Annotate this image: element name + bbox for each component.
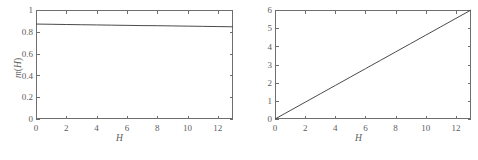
- figure-two-panel-plot: 02468101200.20.40.60.81 m(H) H 024681012…: [0, 0, 478, 160]
- chart-panel-left: 02468101200.20.40.60.81 m(H) H: [0, 0, 239, 160]
- y-axis-label-left-arg: H: [13, 61, 23, 68]
- y-tick-label: 4: [268, 42, 273, 52]
- y-tick-label: 0: [29, 114, 34, 124]
- y-tick-label: 2: [268, 78, 273, 88]
- x-axis-label-left: H: [0, 134, 239, 144]
- x-axis-label-right: H: [239, 134, 478, 144]
- x-tick-label: 10: [421, 123, 431, 133]
- y-tick-label: 3: [268, 60, 273, 70]
- y-tick-label: 0.8: [22, 27, 34, 37]
- x-tick-label: 6: [363, 123, 368, 133]
- y-axis-label-left-close: ): [13, 58, 23, 61]
- x-tick-label: 12: [451, 123, 460, 133]
- y-tick-label: 1: [29, 5, 34, 15]
- y-tick-label: 6: [268, 5, 273, 15]
- x-tick-label: 4: [333, 123, 338, 133]
- x-tick-label: 6: [125, 123, 130, 133]
- y-tick-label: 0: [268, 114, 273, 124]
- data-series-line: [275, 10, 471, 119]
- x-tick-label: 8: [393, 123, 398, 133]
- x-tick-label: 2: [303, 123, 308, 133]
- y-tick-label: 1: [268, 96, 273, 106]
- y-axis-label-left: m(H): [14, 58, 24, 78]
- x-tick-label: 10: [183, 123, 193, 133]
- y-tick-label: 0.6: [22, 49, 34, 59]
- x-tick-label: 4: [94, 123, 99, 133]
- x-tick-label: 2: [64, 123, 69, 133]
- data-series-line: [36, 24, 233, 27]
- chart-panel-right: 0246810120123456 σ2(H) H: [239, 0, 478, 160]
- x-tick-label: 12: [213, 123, 222, 133]
- y-axis-label-left-open: (: [13, 68, 23, 71]
- x-tick-label: 8: [155, 123, 160, 133]
- x-tick-label: 0: [34, 123, 39, 133]
- y-tick-label: 0.4: [22, 71, 34, 81]
- y-axis-label-left-symbol: m: [13, 71, 23, 78]
- y-tick-label: 0.2: [22, 92, 33, 102]
- x-tick-label: 0: [273, 123, 278, 133]
- y-tick-label: 5: [268, 23, 273, 33]
